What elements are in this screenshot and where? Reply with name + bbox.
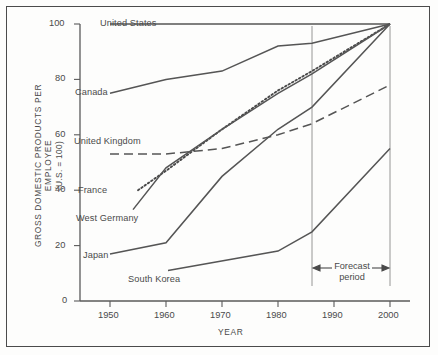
x-tick-label-2000: 2000 (378, 310, 399, 320)
y-tick-label-100: 100 (49, 18, 65, 28)
x-axis-title: YEAR (218, 327, 244, 337)
y-axis-title-sub: (U.S. = 100) (54, 66, 64, 266)
series-label-canada: Canada (75, 87, 108, 97)
x-tick-label-1980: 1980 (266, 310, 287, 320)
y-axis-title: GROSS DOMESTIC PRODUCTS PER EMPLOYEE (U.… (33, 66, 64, 266)
forecast-period-line1: Forecast (332, 261, 372, 271)
x-tick-marks (110, 301, 390, 307)
series-label-west-germany: West Germany (76, 213, 138, 223)
series-label-united-kingdom: United Kingdom (74, 136, 141, 146)
series-label-united-states: United States (100, 18, 156, 28)
series-line-west-germany (133, 24, 390, 210)
series-label-france: France (78, 185, 107, 195)
y-axis-title-main: GROSS DOMESTIC PRODUCTS PER EMPLOYEE (33, 66, 53, 266)
y-tick-label-0: 0 (62, 295, 67, 305)
series-label-japan: Japan (83, 250, 109, 260)
series-line-canada (110, 24, 390, 93)
x-tick-label-1960: 1960 (154, 310, 175, 320)
x-tick-label-1990: 1990 (322, 310, 343, 320)
series-label-south-korea: South Korea (128, 274, 180, 284)
series-line-south-korea (168, 149, 390, 271)
chart-figure: 100 80 60 40 20 0 1950 1960 1970 1980 19… (0, 0, 438, 355)
forecast-period-line2: period (339, 272, 365, 282)
x-tick-label-1970: 1970 (210, 310, 231, 320)
x-tick-label-1950: 1950 (98, 310, 119, 320)
series-line-united-kingdom (110, 85, 390, 154)
y-tick-marks (74, 24, 80, 301)
forecast-period-annotation: Forecast period (325, 261, 379, 282)
